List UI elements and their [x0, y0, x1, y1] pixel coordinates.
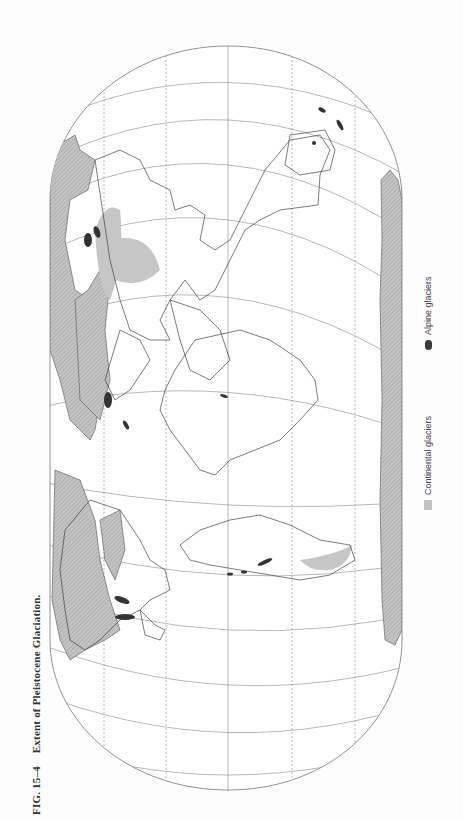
- alpine-glacier-blob-icon: [425, 340, 432, 350]
- page: FIG. 15–4 Extent of Pleistocene Glaciati…: [0, 0, 463, 820]
- world-map: [0, 0, 463, 820]
- legend-label: Continental glaciers: [423, 416, 433, 495]
- continental-glacier-swatch-icon: [424, 500, 432, 510]
- legend-label: Alpine glaciers: [423, 276, 433, 335]
- legend-alpine-glaciers: Alpine glaciers: [423, 276, 433, 350]
- legend-continental-glaciers: Continental glaciers: [423, 416, 433, 510]
